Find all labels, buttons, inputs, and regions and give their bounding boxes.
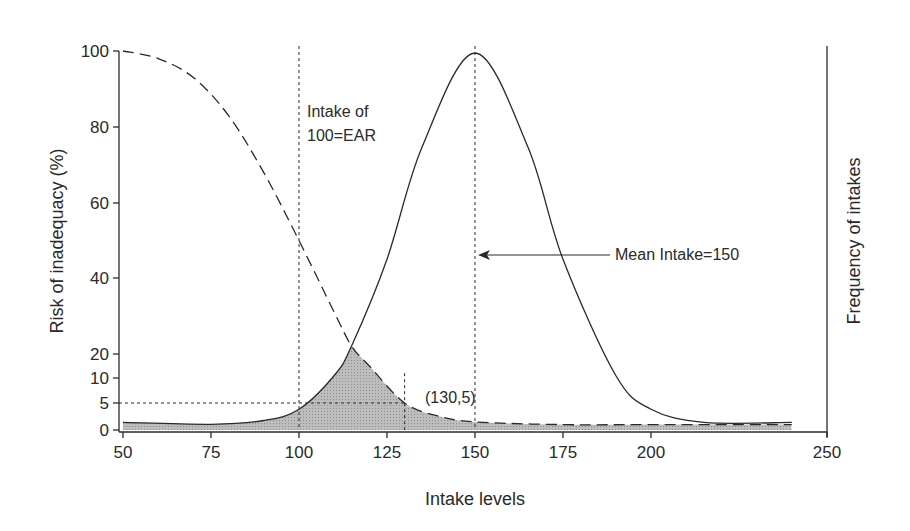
y-axis-title: Risk of inadequacy (%)	[47, 148, 67, 333]
curves	[123, 51, 792, 425]
point-annotation: (130,5)	[425, 389, 476, 406]
y-tick-label-5: 5	[100, 394, 109, 413]
reference-lines	[119, 46, 475, 430]
x-tick-label-200: 200	[637, 443, 665, 462]
ear-annotation-line2: 100=EAR	[307, 127, 376, 144]
x-tick-label-50: 50	[114, 443, 133, 462]
y-tick-label-60: 60	[90, 194, 109, 213]
risk-curve-dashed	[123, 51, 792, 425]
y-tick-label-40: 40	[90, 269, 109, 288]
mean-intake-annotation: Mean Intake=150	[615, 246, 739, 263]
chart: 0510204060801005075100125150175200250 Ri…	[0, 0, 910, 531]
x-tick-label-75: 75	[202, 443, 221, 462]
labels: Risk of inadequacy (%) Frequency of inta…	[47, 103, 864, 509]
chart-svg: 0510204060801005075100125150175200250 Ri…	[0, 0, 910, 531]
x-axis-title: Intake levels	[425, 489, 525, 509]
ear-annotation-line1: Intake of	[307, 103, 369, 120]
x-tick-label-125: 125	[373, 443, 401, 462]
y-tick-label-80: 80	[90, 118, 109, 137]
x-tick-label-175: 175	[549, 443, 577, 462]
y-tick-label-20: 20	[90, 345, 109, 364]
x-tick-label-100: 100	[285, 443, 313, 462]
x-tick-label-150: 150	[461, 443, 489, 462]
y-tick-label-10: 10	[90, 369, 109, 388]
y-tick-label-100: 100	[81, 42, 109, 61]
y-tick-label-0: 0	[100, 421, 109, 440]
y2-axis-title: Frequency of intakes	[844, 157, 864, 324]
x-tick-label-250: 250	[813, 443, 841, 462]
